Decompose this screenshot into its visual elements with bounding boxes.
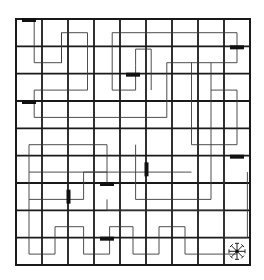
maze-path: [29, 22, 247, 254]
path-segment: [112, 33, 135, 90]
block-r2c9: [230, 45, 244, 49]
block-r1c1: [22, 18, 36, 22]
puzzle-board: Maze grid puzzle Goal: [0, 0, 264, 280]
goal-cell[interactable]: [229, 243, 245, 259]
block-r4c1: [22, 100, 36, 104]
star-compass-icon[interactable]: [229, 243, 245, 259]
block-r9c4: [100, 237, 114, 241]
path-segment: [136, 49, 152, 90]
block-r6c9: [230, 155, 244, 159]
path-segment: [136, 117, 211, 199]
block-r6c6: [145, 162, 149, 176]
path-segment: [34, 22, 167, 118]
block-r7c4: [100, 182, 114, 186]
block-r7c3: [67, 190, 71, 204]
path-segment: [107, 172, 247, 238]
maze-grid: [0, 0, 264, 280]
star-center: [235, 250, 239, 254]
path-segment: [29, 145, 192, 172]
block-r3c5: [126, 73, 140, 77]
path-segment: [29, 199, 237, 254]
